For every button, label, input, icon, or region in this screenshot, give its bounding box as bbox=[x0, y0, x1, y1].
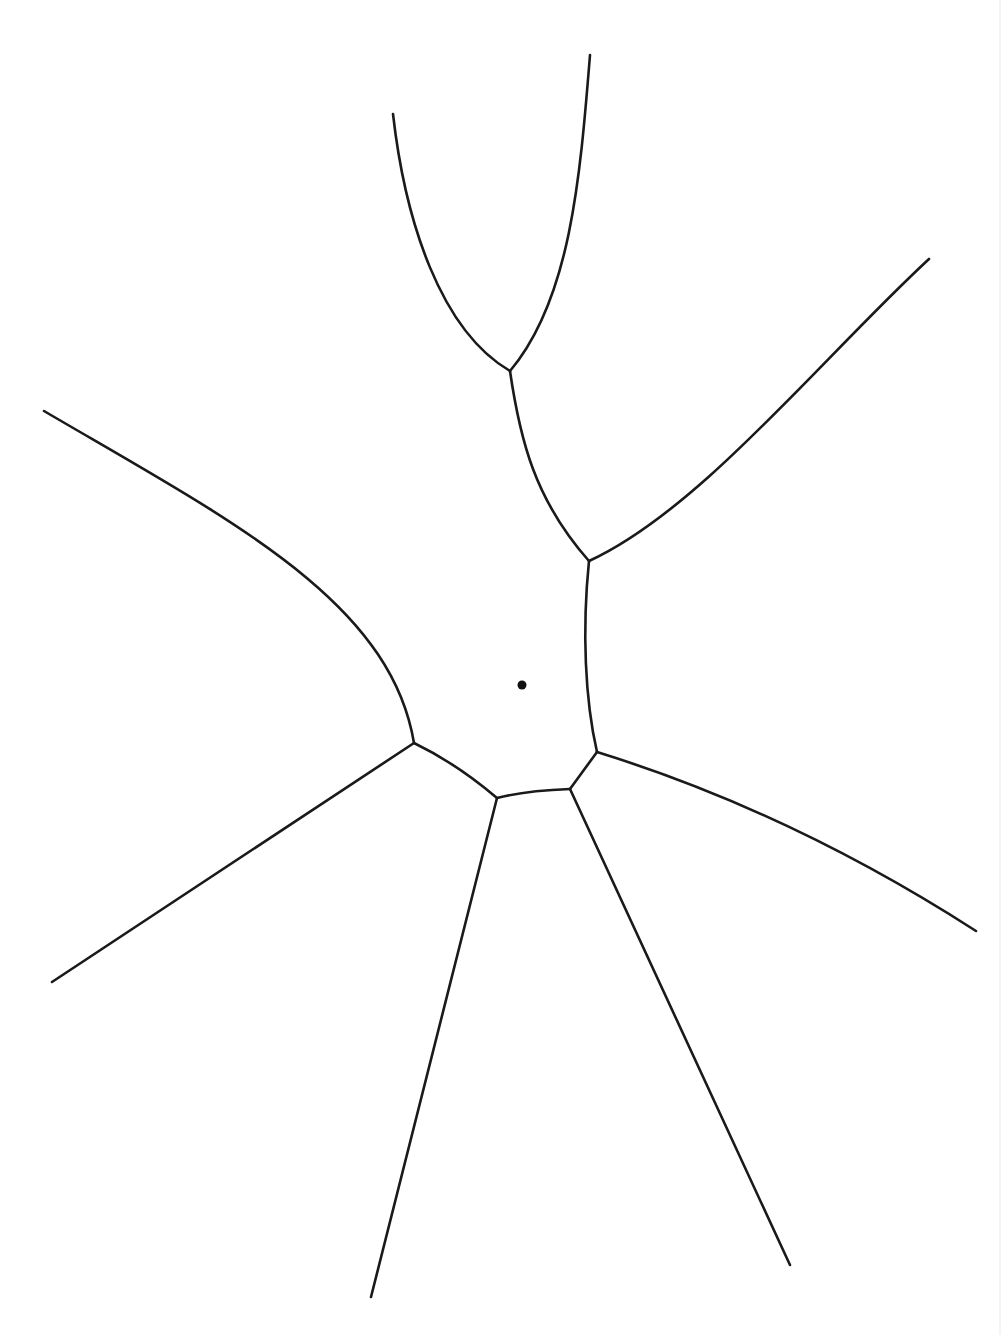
voronoi-diagram bbox=[0, 0, 1001, 1335]
edge-right-arm bbox=[597, 752, 976, 931]
edge-top-to-upper-right bbox=[510, 371, 589, 561]
edge-bottom-right-to-bottom-left bbox=[497, 789, 570, 798]
edge-upper-left-arm bbox=[44, 411, 414, 743]
edge-top-left-arm bbox=[393, 114, 510, 371]
edge-top-right-arm bbox=[510, 55, 590, 371]
edge-bottom-left-to-left bbox=[414, 743, 497, 798]
cell-edges bbox=[44, 55, 976, 1297]
edge-bottom-left-arm bbox=[371, 798, 497, 1297]
edge-bottom-right-arm bbox=[570, 789, 790, 1265]
edge-right-to-bottom-right bbox=[570, 752, 597, 789]
site-point bbox=[518, 681, 527, 690]
edge-left-arm bbox=[52, 743, 414, 982]
edge-upper-right-arm bbox=[589, 259, 929, 561]
edge-upper-right-to-right bbox=[585, 561, 597, 752]
